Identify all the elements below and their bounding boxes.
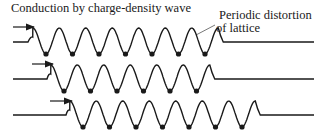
electron-dot-icon [213, 124, 218, 129]
electron-dot-icon [176, 51, 181, 56]
electron-dot-icon [141, 88, 146, 93]
electron-dot-icon [123, 51, 128, 56]
wave-row-3 [13, 101, 314, 130]
electron-dot-icon [149, 51, 154, 56]
electron-dot-icon [88, 88, 93, 93]
cdw-diagram [0, 0, 327, 137]
electron-dot-icon [96, 51, 101, 56]
electron-dot-icon [133, 124, 138, 129]
lattice-wave [13, 101, 314, 127]
electron-dot-icon [239, 124, 244, 129]
electron-dot-icon [43, 51, 48, 56]
electron-dot-icon [167, 88, 172, 93]
lattice-wave [13, 28, 314, 54]
wave-row-1 [13, 27, 314, 57]
electron-dot-icon [80, 124, 85, 129]
electron-dot-icon [114, 88, 119, 93]
electron-dot-icon [194, 88, 199, 93]
electron-dot-icon [202, 51, 207, 56]
annotation-leader-line [196, 25, 215, 35]
electron-dot-icon [160, 124, 165, 129]
electron-dot-icon [61, 88, 66, 93]
electron-dot-icon [186, 124, 191, 129]
lattice-wave [13, 65, 314, 91]
electron-dot-icon [70, 51, 75, 56]
electron-dot-icon [107, 124, 112, 129]
wave-row-2 [13, 64, 314, 94]
